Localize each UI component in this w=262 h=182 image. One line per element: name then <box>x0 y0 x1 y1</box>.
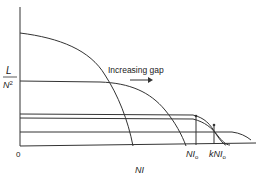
curve-gap-2 <box>20 81 186 146</box>
y-axis-label-denominator: N2 <box>3 80 14 90</box>
ni0-point <box>195 115 198 118</box>
x-axis-label: NI <box>135 165 144 175</box>
origin-label: 0 <box>16 150 21 159</box>
y-axis-label-numerator: L <box>6 65 12 76</box>
increasing-gap-label: Increasing gap <box>108 65 164 75</box>
x-axis <box>20 143 256 146</box>
ni0-label: NIo <box>186 149 199 160</box>
kni0-label: kNIo <box>209 149 227 160</box>
curve-gap-1 <box>20 33 133 146</box>
arrow-head-icon <box>148 77 153 83</box>
inductance-vs-ampere-turns-diagram: L N2 0 Increasing gap NIo kNIo NI <box>0 0 262 182</box>
kni0-point <box>213 124 216 127</box>
